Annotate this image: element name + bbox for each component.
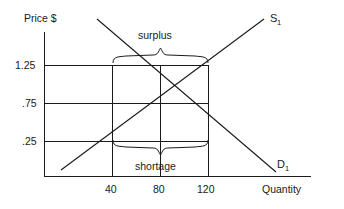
surplus-brace-group xyxy=(113,48,208,63)
axes-group xyxy=(45,32,312,177)
x-tick-label-120: 120 xyxy=(197,183,215,195)
x-tick-label-80: 80 xyxy=(153,183,165,195)
x-tick-label-40: 40 xyxy=(105,183,117,195)
demand-curve-label: D xyxy=(277,158,285,170)
supply-curve-s1 xyxy=(61,19,264,170)
shortage-label: shortage xyxy=(135,160,176,172)
supply-demand-diagram: Price $ Quantity 1.25 .75 .25 40 80 120 … xyxy=(0,0,344,209)
y-tick-label-025: .25 xyxy=(22,135,37,147)
surplus-brace-icon xyxy=(113,48,208,63)
demand-curve-d1 xyxy=(97,19,276,172)
surplus-label: surplus xyxy=(138,29,172,41)
y-axis-title: Price $ xyxy=(24,12,57,24)
y-tick-label-125: 1.25 xyxy=(15,59,36,71)
y-tick-label-075: .75 xyxy=(22,97,37,109)
demand-curve-label-group: D 1 xyxy=(277,158,289,173)
supply-curve-label-group: S 1 xyxy=(270,12,281,27)
x-axis-title: Quantity xyxy=(262,183,302,195)
chart-canvas: Price $ Quantity 1.25 .75 .25 40 80 120 … xyxy=(0,0,344,209)
price-gridlines-group xyxy=(45,66,209,142)
demand-curve-label-subscript: 1 xyxy=(285,164,289,173)
supply-curve-label-subscript: 1 xyxy=(277,18,281,27)
